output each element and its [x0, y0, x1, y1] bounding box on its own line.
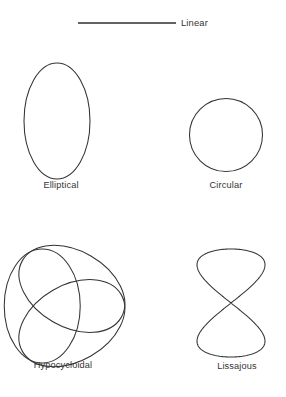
circular-curve [190, 99, 263, 172]
linear-legend-label: Linear [181, 18, 208, 28]
caption-lissajous: Lissajous [217, 361, 257, 371]
curves-canvas [0, 0, 286, 397]
caption-elliptical: Elliptical [43, 180, 78, 190]
hypocycloid-lobe-1 [4, 249, 80, 363]
elliptical-curve [24, 63, 90, 179]
figure-panel: Linear Elliptical Circular Hypocycloidal… [0, 0, 286, 397]
lissajous-curve [197, 249, 265, 357]
caption-hypocycloidal: Hypocycloidal [34, 360, 93, 370]
hypocycloid-lobe-2 [4, 227, 141, 350]
caption-circular: Circular [210, 180, 243, 190]
